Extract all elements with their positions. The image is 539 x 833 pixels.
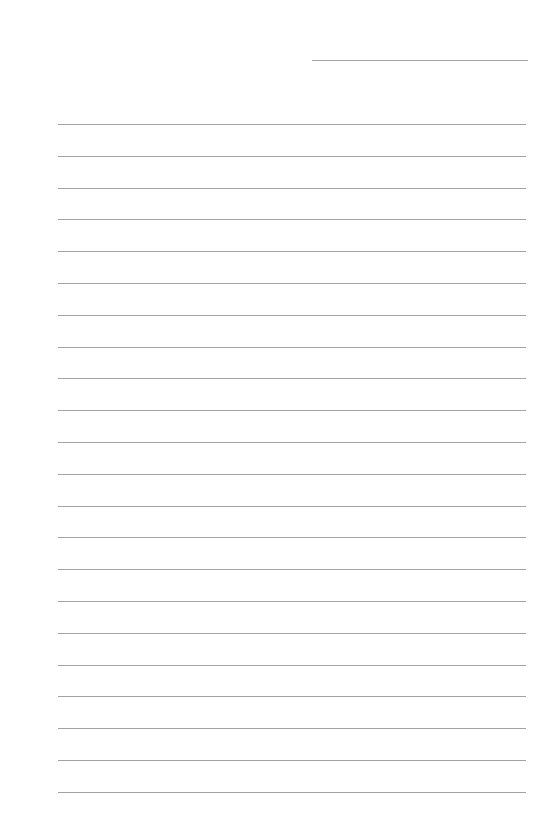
- ruled-line: [58, 696, 526, 697]
- ruled-line: [58, 410, 526, 411]
- ruled-line: [58, 219, 526, 220]
- ruled-line: [58, 124, 526, 125]
- header-date-line: [312, 60, 528, 61]
- ruled-line: [58, 792, 526, 793]
- ruled-line: [58, 283, 526, 284]
- ruled-line: [58, 156, 526, 157]
- ruled-line: [58, 378, 526, 379]
- ruled-line: [58, 569, 526, 570]
- ruled-line: [58, 665, 526, 666]
- ruled-line: [58, 251, 526, 252]
- ruled-line: [58, 188, 526, 189]
- ruled-line: [58, 633, 526, 634]
- ruled-line: [58, 728, 526, 729]
- ruled-line: [58, 506, 526, 507]
- ruled-line: [58, 442, 526, 443]
- ruled-line: [58, 347, 526, 348]
- ruled-line: [58, 474, 526, 475]
- ruled-line: [58, 601, 526, 602]
- ruled-line: [58, 315, 526, 316]
- ruled-line: [58, 760, 526, 761]
- lined-paper-page: [0, 0, 539, 833]
- ruled-line: [58, 537, 526, 538]
